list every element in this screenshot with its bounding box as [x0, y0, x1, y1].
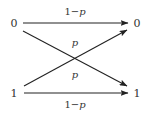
input-label-0: 0: [11, 17, 18, 30]
edge-label-1-to-1: 1−p: [64, 99, 86, 110]
output-label-1: 1: [134, 87, 141, 100]
edge-label-0-to-1: p: [72, 37, 79, 48]
output-label-0: 0: [134, 17, 141, 30]
binary-symmetric-channel-diagram: 0 1 0 1 1−p p p 1−p: [0, 0, 149, 115]
edge-label-1-to-0: p: [72, 69, 79, 80]
input-label-1: 1: [11, 87, 18, 100]
edge-label-0-to-0: 1−p: [64, 6, 86, 17]
